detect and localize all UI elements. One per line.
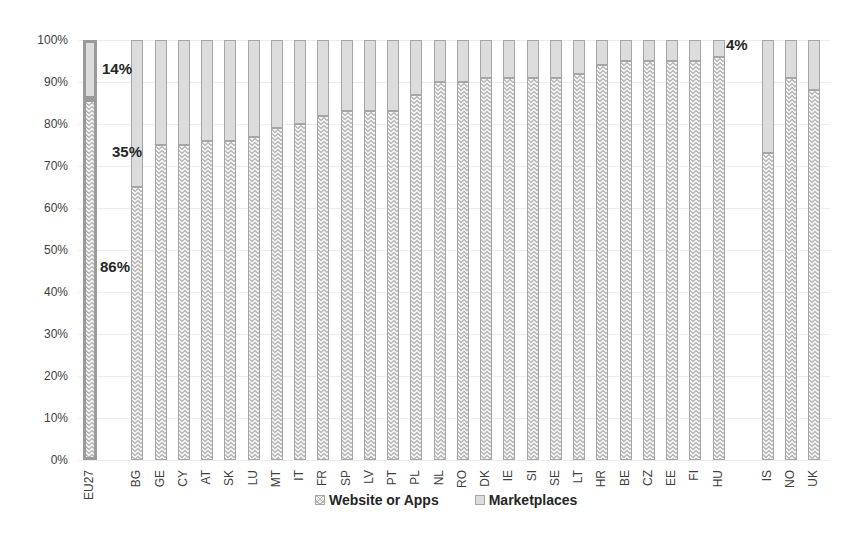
segment-website-apps <box>341 111 353 460</box>
segment-marketplaces <box>201 40 213 141</box>
y-tick-label: 70% <box>0 159 68 173</box>
y-tick-label: 100% <box>0 33 68 47</box>
x-tick-label: BG <box>129 470 143 500</box>
data-label-annotation: 35% <box>112 143 142 160</box>
segment-website-apps <box>131 187 143 460</box>
hatched-swatch-icon <box>315 495 325 505</box>
bar-sk <box>224 40 236 460</box>
data-label-annotation: 4% <box>726 36 748 53</box>
segment-marketplaces <box>503 40 515 78</box>
segment-marketplaces <box>785 40 797 78</box>
segment-marketplaces <box>527 40 539 78</box>
legend-item-marketplaces: Marketplaces <box>475 492 578 508</box>
x-tick-label: CY <box>176 470 190 500</box>
bar-be <box>620 40 632 460</box>
y-tick-label: 10% <box>0 411 68 425</box>
bar-uk <box>808 40 820 460</box>
x-tick-label: IS <box>760 470 774 500</box>
bar-cz <box>643 40 655 460</box>
segment-website-apps <box>434 82 446 460</box>
bar-cy <box>178 40 190 460</box>
solid-swatch-icon <box>475 495 485 505</box>
x-tick-label: SK <box>222 470 236 500</box>
x-tick-label: BE <box>618 470 632 500</box>
segment-marketplaces <box>689 40 701 61</box>
segment-marketplaces <box>762 40 774 153</box>
segment-marketplaces <box>666 40 678 61</box>
segment-website-apps <box>527 78 539 460</box>
segment-marketplaces <box>434 40 446 82</box>
segment-website-apps <box>271 128 283 460</box>
bar-si <box>527 40 539 460</box>
segment-marketplaces <box>480 40 492 78</box>
segment-marketplaces <box>317 40 329 116</box>
bar-lu <box>248 40 260 460</box>
bar-no <box>785 40 797 460</box>
segment-marketplaces <box>387 40 399 111</box>
bar-ee <box>666 40 678 460</box>
segment-marketplaces <box>713 40 725 57</box>
segment-website-apps <box>596 65 608 460</box>
segment-website-apps <box>317 116 329 460</box>
x-tick-label: CZ <box>641 470 655 500</box>
x-tick-label: FI <box>687 470 701 500</box>
segment-website-apps <box>387 111 399 460</box>
legend-label-marketplaces: Marketplaces <box>489 492 578 508</box>
bar-se <box>550 40 562 460</box>
segment-website-apps <box>762 153 774 460</box>
x-tick-label: HU <box>711 470 725 500</box>
legend-label-website: Website or Apps <box>329 492 439 508</box>
segment-website-apps <box>178 145 190 460</box>
x-tick-label: MT <box>269 470 283 500</box>
x-tick-label: IT <box>292 470 306 500</box>
x-tick-label: LU <box>246 470 260 500</box>
bar-at <box>201 40 213 460</box>
segment-website-apps <box>550 78 562 460</box>
segment-marketplaces <box>364 40 376 111</box>
bar-ro <box>457 40 469 460</box>
x-tick-label: UK <box>806 470 820 500</box>
data-label-annotation: 14% <box>102 60 132 77</box>
bar-mt <box>271 40 283 460</box>
segment-website-apps <box>643 61 655 460</box>
segment-marketplaces <box>808 40 820 90</box>
y-tick-label: 50% <box>0 243 68 257</box>
legend: Website or Apps Marketplaces <box>315 492 577 508</box>
y-tick-label: 20% <box>0 369 68 383</box>
bar-lt <box>573 40 585 460</box>
y-tick-label: 90% <box>0 75 68 89</box>
bar-pl <box>410 40 422 460</box>
segment-website-apps <box>155 145 167 460</box>
x-tick-label: EE <box>664 470 678 500</box>
segment-marketplaces <box>550 40 562 78</box>
stacked-bar-chart: 0%10%20%30%40%50%60%70%80%90%100% EU27BG… <box>0 0 857 533</box>
segment-marketplaces <box>294 40 306 124</box>
segment-website-apps <box>83 99 97 460</box>
segment-marketplaces <box>83 40 97 99</box>
bar-hr <box>596 40 608 460</box>
segment-marketplaces <box>155 40 167 145</box>
bar-fr <box>317 40 329 460</box>
segment-website-apps <box>785 78 797 460</box>
segment-website-apps <box>689 61 701 460</box>
segment-website-apps <box>666 61 678 460</box>
segment-marketplaces <box>341 40 353 111</box>
segment-website-apps <box>410 95 422 460</box>
segment-marketplaces <box>573 40 585 74</box>
segment-website-apps <box>480 78 492 460</box>
y-tick-label: 0% <box>0 453 68 467</box>
x-tick-label: NO <box>783 470 797 500</box>
segment-website-apps <box>457 82 469 460</box>
bar-hu <box>713 40 725 460</box>
segment-marketplaces <box>457 40 469 82</box>
segment-marketplaces <box>271 40 283 128</box>
segment-website-apps <box>620 61 632 460</box>
x-tick-label: HR <box>594 470 608 500</box>
segment-website-apps <box>294 124 306 460</box>
y-tick-label: 80% <box>0 117 68 131</box>
segment-website-apps <box>573 74 585 460</box>
segment-marketplaces <box>643 40 655 61</box>
bar-it <box>294 40 306 460</box>
gridline <box>78 460 830 461</box>
bar-pt <box>387 40 399 460</box>
